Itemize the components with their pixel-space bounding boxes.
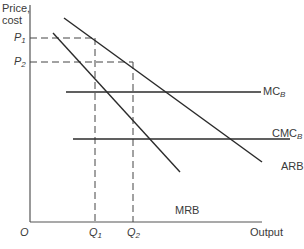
q2-label: Q2 <box>127 227 140 240</box>
diagram-canvas <box>0 0 304 249</box>
q1-label: Q1 <box>89 227 102 240</box>
mc-b-label: MCB <box>263 86 285 99</box>
cmc-b-label: CMCB <box>272 128 302 141</box>
arb-curve <box>64 18 262 162</box>
p1-label: P1 <box>14 32 26 45</box>
p2-label: P2 <box>14 56 26 69</box>
x-axis-label: Output <box>250 227 283 238</box>
mrb-label: MRB <box>175 205 199 216</box>
origin-label: O <box>20 227 29 238</box>
y-axis-label: Price, cost <box>2 3 30 26</box>
arb-label: ARB <box>281 161 304 172</box>
mrb-curve <box>53 33 180 172</box>
